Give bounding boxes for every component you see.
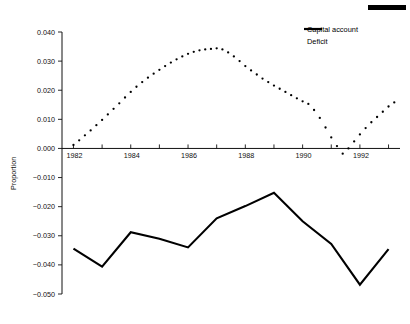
legend-label-deficit: Deficit (307, 37, 328, 46)
series-deficit (73, 193, 388, 285)
legend: Capital account Deficit (303, 24, 358, 47)
x-tick-label: 1984 (124, 151, 140, 160)
chart-page: 0.0400.0300.0200.0100.000−0.010−0.020−0.… (0, 0, 410, 324)
x-tick-label: 1990 (296, 151, 312, 160)
y-tick-label: −0.010 (33, 173, 55, 182)
y-tick-label: 0.000 (37, 144, 55, 153)
x-tick-label: 1988 (238, 151, 254, 160)
y-tick-label: 0.020 (37, 86, 55, 95)
legend-item-deficit[interactable]: Deficit (303, 36, 358, 47)
line-chart: 0.0400.0300.0200.0100.000−0.010−0.020−0.… (0, 0, 410, 324)
y-axis-title: Proportion (9, 157, 18, 190)
series-capital-account (72, 47, 395, 155)
y-tick-label: −0.040 (33, 260, 55, 269)
x-tick-label: 1992 (353, 151, 369, 160)
x-tick-label: 1986 (181, 151, 197, 160)
x-tick-label: 1982 (66, 151, 82, 160)
y-tick-label: −0.020 (33, 202, 55, 211)
y-tick-label: −0.030 (33, 231, 55, 240)
solid-line-swatch-icon (303, 24, 325, 34)
y-tick-label: 0.030 (37, 57, 55, 66)
y-tick-label: 0.010 (37, 115, 55, 124)
y-tick-label: −0.050 (33, 290, 55, 299)
y-tick-label: 0.040 (37, 28, 55, 37)
